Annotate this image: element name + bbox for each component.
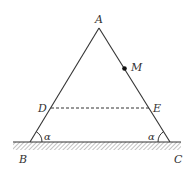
label-c: C xyxy=(174,153,183,166)
label-angle-b: α xyxy=(44,131,51,142)
ground-hatch xyxy=(13,142,181,150)
label-angle-c: α xyxy=(148,131,155,142)
side-ab xyxy=(30,28,99,142)
angle-arc-b xyxy=(36,132,42,142)
label-b: B xyxy=(18,153,27,166)
point-m-dot xyxy=(122,66,127,71)
label-e: E xyxy=(152,102,161,115)
label-d: D xyxy=(37,102,47,115)
label-a: A xyxy=(94,13,103,26)
side-ac xyxy=(99,28,170,142)
triangle-diagram: A M D E B C α α xyxy=(0,0,192,175)
angle-arc-c xyxy=(158,132,164,142)
label-m: M xyxy=(130,61,143,74)
